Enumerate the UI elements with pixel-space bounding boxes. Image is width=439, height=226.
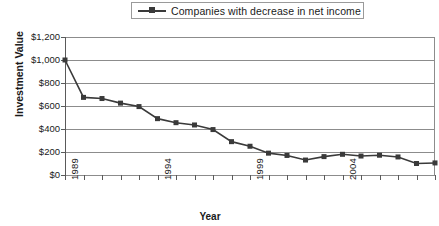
- data-point-marker: [285, 153, 290, 158]
- data-point-marker: [211, 127, 216, 132]
- data-point-marker: [174, 120, 179, 125]
- data-point-marker: [81, 95, 86, 100]
- data-point-marker: [340, 152, 345, 157]
- data-point-marker: [377, 153, 382, 158]
- data-point-marker: [322, 154, 327, 159]
- data-point-marker: [229, 139, 234, 144]
- data-point-marker: [359, 154, 364, 159]
- data-series-line: [0, 0, 439, 226]
- data-point-marker: [155, 116, 160, 121]
- chart-container: Companies with decrease in net income In…: [0, 0, 439, 226]
- data-point-marker: [63, 58, 68, 63]
- data-point-marker: [396, 154, 401, 159]
- data-point-marker: [137, 104, 142, 109]
- data-point-marker: [248, 144, 253, 149]
- data-point-marker: [303, 158, 308, 163]
- data-point-marker: [118, 101, 123, 106]
- data-point-marker: [100, 96, 105, 101]
- data-point-marker: [414, 161, 419, 166]
- data-point-marker: [192, 122, 197, 127]
- data-point-marker: [266, 151, 271, 156]
- data-point-marker: [433, 160, 438, 165]
